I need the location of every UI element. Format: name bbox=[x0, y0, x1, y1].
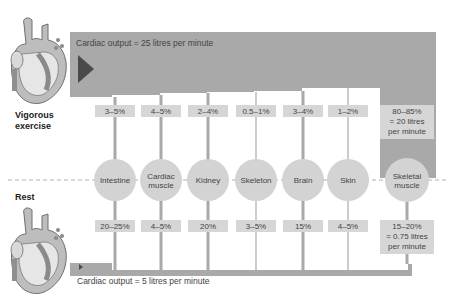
organ-node-intestine: Intestine bbox=[94, 159, 136, 201]
rest-value-kidney: 20% bbox=[188, 220, 228, 232]
organ-name: Skeletal bbox=[393, 172, 422, 181]
rest-cardiac-output-label: Cardiac output = 5 litres per minute bbox=[77, 276, 210, 286]
rest-value-cardiac-muscle: 4–5% bbox=[141, 220, 181, 232]
exercise-value-skin: 1–2% bbox=[328, 105, 368, 117]
percent-value: per minute bbox=[388, 242, 426, 251]
rest-value-skin: 4–5% bbox=[328, 220, 368, 232]
organ-name: Brain bbox=[294, 176, 313, 185]
organ-name: Intestine bbox=[100, 176, 131, 185]
organ-node-cardiac-muscle: Cardiacmuscle bbox=[140, 159, 182, 201]
percent-value: = 0.75 litres bbox=[386, 232, 428, 241]
percent-value: 15% bbox=[295, 222, 311, 231]
exercise-value-skeleton: 0.5–1% bbox=[236, 105, 276, 117]
organ-name: Kidney bbox=[196, 176, 220, 185]
organ-node-skeletal-muscle: Skeletalmuscle bbox=[385, 158, 429, 202]
organ-name: muscle bbox=[394, 181, 420, 190]
rest-flow-band-shape bbox=[70, 263, 412, 276]
exercise-value-intestine: 3–5% bbox=[95, 105, 135, 117]
rest-flow-band bbox=[70, 263, 412, 276]
organ-name: Skeleton bbox=[240, 176, 271, 185]
rest-percent-boxes: 20–25%4–5%20%3–5%15%4–5%15–20%= 0.75 lit… bbox=[95, 220, 434, 254]
organ-name: Skin bbox=[340, 176, 356, 185]
blood-flow-diagram: Cardiac output = 25 litres per minute Ca… bbox=[0, 0, 452, 303]
percent-value: 15–20% bbox=[392, 222, 421, 231]
heart-icon-exercise bbox=[11, 18, 66, 104]
exercise-cardiac-output-label: Cardiac output = 25 litres per minute bbox=[76, 38, 214, 48]
organ-name: Cardiac bbox=[147, 172, 175, 181]
percent-value: = 20 litres bbox=[390, 117, 425, 126]
percent-value: 1–2% bbox=[338, 107, 358, 116]
organ-nodes: IntestineCardiacmuscleKidneySkeletonBrai… bbox=[94, 158, 429, 202]
rest-value-intestine: 20–25% bbox=[95, 220, 135, 232]
rest-value-skeletal-muscle: 15–20%= 0.75 litresper minute bbox=[380, 220, 434, 254]
organ-node-skin: Skin bbox=[327, 159, 369, 201]
percent-value: 4–5% bbox=[151, 222, 171, 231]
percent-value: 0.5–1% bbox=[242, 107, 269, 116]
vigorous-exercise-label-line1: Vigorous bbox=[15, 110, 54, 120]
rest-value-skeleton: 3–5% bbox=[236, 220, 276, 232]
percent-value: per minute bbox=[388, 127, 426, 136]
organ-node-kidney: Kidney bbox=[187, 159, 229, 201]
percent-value: 3–5% bbox=[105, 107, 125, 116]
rest-value-brain: 15% bbox=[283, 220, 323, 232]
percent-value: 20–25% bbox=[100, 222, 129, 231]
exercise-value-cardiac-muscle: 4–5% bbox=[141, 105, 181, 117]
vigorous-exercise-label-line2: exercise bbox=[15, 121, 51, 131]
percent-value: 3–4% bbox=[293, 107, 313, 116]
percent-value: 20% bbox=[200, 222, 216, 231]
percent-value: 80–85% bbox=[392, 107, 421, 116]
exercise-value-brain: 3–4% bbox=[283, 105, 323, 117]
organ-name: muscle bbox=[148, 181, 174, 190]
percent-value: 3–5% bbox=[246, 222, 266, 231]
percent-value: 2–4% bbox=[198, 107, 218, 116]
exercise-value-kidney: 2–4% bbox=[188, 105, 228, 117]
organ-node-brain: Brain bbox=[282, 159, 324, 201]
exercise-value-skeletal-muscle: 80–85%= 20 litresper minute bbox=[380, 105, 434, 139]
rest-label: Rest bbox=[15, 192, 35, 202]
percent-value: 4–5% bbox=[338, 222, 358, 231]
percent-value: 4–5% bbox=[151, 107, 171, 116]
organ-node-skeleton: Skeleton bbox=[235, 159, 277, 201]
heart-icon-rest bbox=[11, 208, 66, 294]
exercise-percent-boxes: 3–5%4–5%2–4%0.5–1%3–4%1–2%80–85%= 20 lit… bbox=[95, 105, 434, 139]
